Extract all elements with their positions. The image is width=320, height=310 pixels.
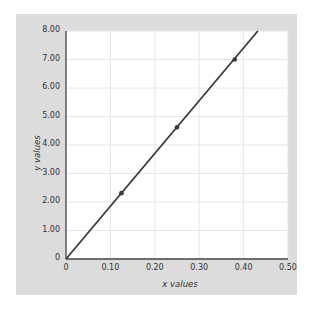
data-point — [232, 57, 237, 62]
y-tick-label: 1.00 — [20, 225, 60, 234]
y-tick-label: 7.00 — [20, 54, 60, 63]
y-axis-label: y values — [32, 128, 42, 178]
y-tick-label: 8.00 — [20, 25, 60, 34]
y-tick-label: 6.00 — [20, 82, 60, 91]
x-tick-label: 0.40 — [229, 263, 259, 272]
x-tick-label: 0.20 — [140, 263, 170, 272]
x-tick-label: 0 — [51, 263, 81, 272]
y-tick-label: 2.00 — [20, 196, 60, 205]
x-tick-label: 0.10 — [95, 263, 125, 272]
gridlines — [66, 31, 288, 259]
data-point — [175, 125, 180, 130]
y-tick-label: 5.00 — [20, 111, 60, 120]
data-point — [119, 191, 124, 196]
x-axis-label: x values — [150, 279, 210, 289]
y-tick-label: 0 — [20, 253, 60, 262]
x-tick-label: 0.50 — [273, 263, 303, 272]
x-tick-label: 0.30 — [184, 263, 214, 272]
